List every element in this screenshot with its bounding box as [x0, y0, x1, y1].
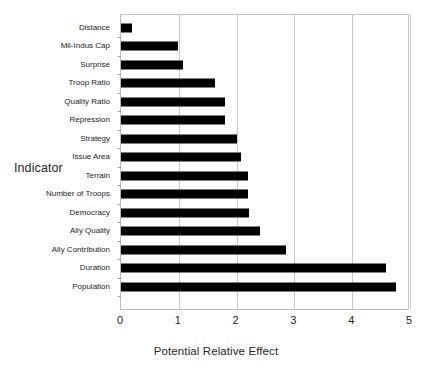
category-label: Democracy — [70, 207, 110, 216]
y-axis-tick — [118, 130, 121, 131]
x-axis-tick-label: 4 — [348, 314, 354, 326]
category-label: Duration — [80, 263, 110, 272]
y-axis-tick — [118, 148, 121, 149]
y-axis-tick — [118, 111, 121, 112]
category-label: Ally Quality — [70, 226, 110, 235]
y-axis-tick — [118, 37, 121, 38]
y-axis-tick — [118, 167, 121, 168]
bar — [121, 60, 183, 69]
x-axis-tick-labels: 012345 — [120, 314, 409, 332]
y-axis-tick — [118, 222, 121, 223]
category-label: Number of Troops — [46, 189, 110, 198]
bar-chart: Indicator DistanceMil-Indus CapSurpriseT… — [0, 0, 432, 372]
x-axis-tick-label: 0 — [117, 314, 123, 326]
y-axis-tick — [118, 56, 121, 57]
bar — [121, 134, 237, 143]
category-label: Quality Ratio — [64, 96, 110, 105]
plot-area — [120, 14, 409, 310]
y-axis-tick — [118, 241, 121, 242]
y-axis-tick — [118, 185, 121, 186]
bar — [121, 208, 249, 217]
y-axis-tick — [118, 204, 121, 205]
y-axis-tick — [118, 296, 121, 297]
category-label: Surprise — [80, 59, 110, 68]
x-axis-tick-label: 5 — [406, 314, 412, 326]
category-label: Troop Ratio — [69, 78, 111, 87]
category-label: Strategy — [80, 133, 110, 142]
category-label: Repression — [70, 115, 110, 124]
bar — [121, 116, 225, 125]
bar — [121, 190, 248, 199]
bar — [121, 23, 132, 32]
y-axis-tick — [118, 74, 121, 75]
x-axis-title: Potential Relative Effect — [0, 345, 432, 357]
x-axis-tick-label: 1 — [175, 314, 181, 326]
bar — [121, 171, 248, 180]
bar — [121, 227, 260, 236]
category-label: Ally Contribution — [52, 244, 110, 253]
bar — [121, 264, 386, 273]
category-label: Mil-Indus Cap — [61, 41, 110, 50]
y-axis-tick — [118, 278, 121, 279]
bar — [121, 282, 396, 291]
gridline — [410, 15, 411, 309]
category-label: Distance — [79, 22, 110, 31]
bar — [121, 97, 225, 106]
bar — [121, 42, 178, 51]
x-axis-tick-label: 2 — [233, 314, 239, 326]
category-label: Population — [72, 281, 110, 290]
bar — [121, 245, 286, 254]
bar — [121, 79, 215, 88]
bar — [121, 153, 241, 162]
category-label: Terrain — [86, 170, 110, 179]
x-axis-tick-label: 3 — [290, 314, 296, 326]
category-label: Issue Area — [72, 152, 110, 161]
y-axis-tick — [118, 259, 121, 260]
y-axis-tick — [118, 93, 121, 94]
category-label-list: DistanceMil-Indus CapSurpriseTroop Ratio… — [40, 14, 115, 310]
